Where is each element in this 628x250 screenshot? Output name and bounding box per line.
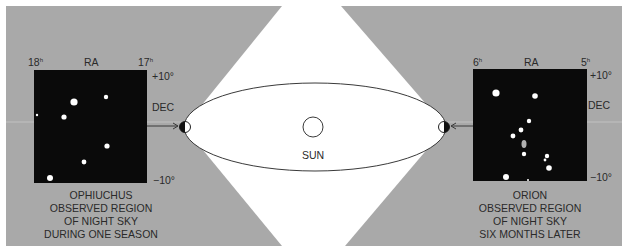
- star-icon: [503, 174, 509, 180]
- ophiuchus-ra-right-label: 17h: [138, 57, 153, 68]
- star-icon: [61, 114, 66, 119]
- constellation-name: ORION: [450, 189, 610, 202]
- orion-dec-bottom-label: −10°: [590, 172, 612, 183]
- ra-right-value: 17: [138, 56, 150, 68]
- star-icon: [545, 154, 549, 158]
- caption-line-3: SIX MONTHS LATER: [450, 228, 610, 241]
- caption-line-2: OF NIGHT SKY: [21, 215, 181, 228]
- star-icon: [104, 143, 109, 148]
- star-icon: [527, 119, 531, 123]
- caption-line-1: OBSERVED REGION: [450, 202, 610, 215]
- ophiuchus-dec-top-label: +10°: [152, 71, 174, 82]
- star-icon: [532, 93, 538, 99]
- ophiuchus-star-field: [34, 70, 147, 183]
- star-icon: [82, 160, 87, 165]
- ra-unit: h: [479, 57, 482, 63]
- star-icon: [104, 95, 108, 99]
- caption-line-2: OF NIGHT SKY: [450, 215, 610, 228]
- star-icon: [527, 179, 529, 181]
- orion-ra-label: RA: [524, 57, 539, 68]
- star-icon: [36, 114, 38, 116]
- ra-unit: h: [40, 57, 43, 63]
- orion-ra-right-label: 5h: [581, 57, 590, 68]
- orion-caption: ORION OBSERVED REGION OF NIGHT SKY SIX M…: [450, 189, 610, 241]
- nebula-icon: [522, 140, 527, 148]
- orion-dec-label: DEC: [588, 100, 610, 111]
- star-icon: [70, 98, 77, 105]
- ra-unit: h: [587, 57, 590, 63]
- orion-star-field: [473, 69, 587, 181]
- ophiuchus-ra-label: RA: [84, 57, 99, 68]
- ra-unit: h: [150, 57, 153, 63]
- caption-line-1: OBSERVED REGION: [21, 202, 181, 215]
- ophiuchus-ra-left-label: 18h: [28, 57, 43, 68]
- caption-line-3: DURING ONE SEASON: [21, 228, 181, 241]
- ophiuchus-dec-label: DEC: [152, 102, 174, 113]
- sun-icon: [303, 117, 323, 137]
- ophiuchus-dec-bottom-label: −10°: [153, 175, 175, 186]
- star-icon: [511, 134, 516, 139]
- star-icon: [522, 152, 526, 156]
- earth-right-position-icon: [439, 122, 450, 133]
- earth-left-position-icon: [180, 122, 191, 133]
- star-icon: [544, 159, 547, 162]
- star-icon: [492, 89, 499, 96]
- orion-ra-left-label: 6h: [473, 57, 482, 68]
- constellation-name: OPHIUCHUS: [21, 189, 181, 202]
- ra-left-value: 18: [28, 56, 40, 68]
- star-icon: [47, 175, 53, 181]
- star-icon: [519, 128, 524, 133]
- ophiuchus-caption: OPHIUCHUS OBSERVED REGION OF NIGHT SKY D…: [21, 189, 181, 241]
- star-icon: [546, 165, 552, 171]
- sun-label: SUN: [302, 150, 324, 161]
- orion-dec-top-label: +10°: [590, 70, 612, 81]
